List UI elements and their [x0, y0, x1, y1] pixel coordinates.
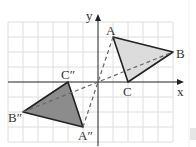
edge-mark — [190, 128, 196, 140]
coordinate-diagram: y x A B C C″ B″ A″ — [0, 0, 196, 147]
label-x: x — [177, 84, 184, 99]
label-b-double-prime: B″ — [8, 110, 22, 125]
label-c: C — [123, 84, 132, 99]
label-a-double-prime: A″ — [78, 128, 93, 143]
label-a: A — [106, 23, 116, 38]
y-axis-arrow-icon — [95, 14, 101, 21]
label-c-double-prime: C″ — [61, 67, 75, 82]
label-b: B — [176, 46, 185, 61]
label-y: y — [86, 8, 93, 23]
